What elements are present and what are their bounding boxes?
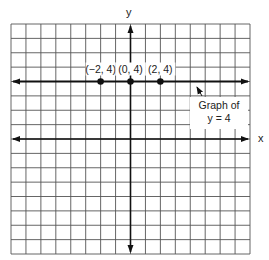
annotation: Graph of y = 4 [190,87,248,129]
point-label: (−2, 4) [85,63,116,75]
annotation-line2: y = 4 [207,112,230,124]
data-point [127,78,134,85]
data-point [157,78,164,85]
axes [13,26,248,252]
coordinate-plane: (−2, 4)(0, 4)(2, 4) x y Graph of y = 4 [0,0,269,260]
point-label: (2, 4) [148,63,173,75]
data-point [97,78,104,85]
x-axis-label: x [258,132,264,144]
point-label: (0, 4) [118,63,143,75]
annotation-line1: Graph of [199,99,240,111]
annotation-arrow [197,87,202,96]
points: (−2, 4)(0, 4)(2, 4) [85,63,175,85]
y-axis-label: y [126,6,132,18]
